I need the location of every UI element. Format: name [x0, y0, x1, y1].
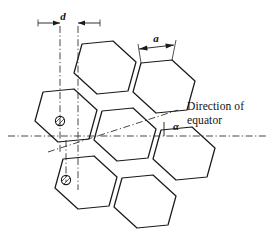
dimension-label-a: a	[153, 32, 159, 44]
equator-direction-label-line1: Direction of	[187, 99, 244, 114]
hex-cell-right	[153, 127, 215, 180]
equator-direction-label-line2: equator	[187, 113, 222, 128]
dimension-a: a	[138, 32, 176, 63]
hexagon-lattice-diagram: d a α Direction of equator	[0, 0, 273, 243]
dimension-label-d: d	[60, 10, 66, 22]
hex-cell-bottom	[114, 175, 176, 228]
centre-marker-lower	[59, 172, 73, 186]
dimension-d: d	[38, 10, 100, 27]
figure-canvas: d a α	[0, 0, 273, 243]
hex-cell-top	[74, 41, 136, 94]
hex-cell-left	[35, 89, 97, 142]
hex-cell-lower-left	[55, 156, 117, 209]
hexagon-grid	[35, 41, 215, 228]
hex-cell-upper-right	[133, 60, 195, 113]
lattice-row-centerline	[48, 110, 178, 152]
angle-label-alpha: α	[173, 121, 179, 132]
